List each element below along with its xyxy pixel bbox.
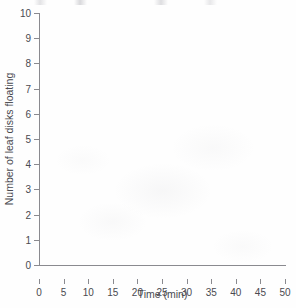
x-tick-mark: [162, 279, 163, 284]
cropped-text-artifact: [34, 0, 234, 5]
y-tick-mark: [34, 89, 39, 90]
y-tick-mark: [34, 38, 39, 39]
y-tick-mark: [34, 189, 39, 190]
y-tick-label: 2: [25, 209, 31, 220]
x-tick-mark: [113, 279, 114, 284]
y-tick-label: 5: [25, 134, 31, 145]
y-tick-label: 9: [25, 33, 31, 44]
x-tick-mark: [285, 279, 286, 284]
y-tick-label: 3: [25, 184, 31, 195]
y-tick-mark: [34, 265, 39, 266]
x-tick-mark: [187, 279, 188, 284]
y-tick-label: 7: [25, 83, 31, 94]
plot-area: 012345678910 05101520253035404550: [39, 13, 285, 265]
y-tick-mark: [34, 240, 39, 241]
x-axis-title: Time (min): [39, 288, 286, 300]
y-tick-label: 0: [25, 260, 31, 271]
x-tick-mark: [88, 279, 89, 284]
x-tick-mark: [260, 279, 261, 284]
y-tick-label: 8: [25, 58, 31, 69]
x-axis-line: [39, 265, 286, 266]
y-tick-mark: [34, 114, 39, 115]
y-tick-mark: [34, 139, 39, 140]
chart-figure: 012345678910 05101520253035404550 Number…: [0, 0, 296, 308]
y-tick-label: 10: [20, 8, 31, 19]
x-tick-mark: [211, 279, 212, 284]
x-tick-mark: [236, 279, 237, 284]
x-tick-mark: [64, 279, 65, 284]
y-tick-label: 1: [25, 234, 31, 245]
y-tick-label: 6: [25, 108, 31, 119]
x-tick-mark: [137, 279, 138, 284]
y-tick-label: 4: [25, 159, 31, 170]
y-tick-mark: [34, 164, 39, 165]
x-tick-mark: [39, 279, 40, 284]
y-tick-mark: [34, 215, 39, 216]
y-tick-mark: [34, 13, 39, 14]
y-tick-mark: [34, 63, 39, 64]
y-axis-title-text: Number of leaf disks floating: [3, 73, 15, 205]
y-axis-title: Number of leaf disks floating: [2, 13, 16, 265]
